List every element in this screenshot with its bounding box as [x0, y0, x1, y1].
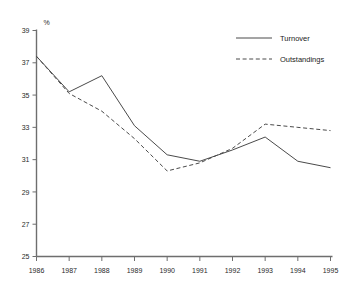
y-tick-label: 39 [22, 27, 30, 34]
series-line-turnover [37, 56, 331, 167]
x-tick-label: 1990 [159, 267, 175, 274]
x-tick-label: 1993 [257, 267, 273, 274]
y-tick-label: 29 [22, 189, 30, 196]
x-tick-label: 1995 [323, 267, 339, 274]
x-tick-label: 1989 [127, 267, 143, 274]
legend-label-turnover: Turnover [280, 34, 310, 43]
x-tick-label: 1991 [192, 267, 208, 274]
y-tick-label: 33 [22, 124, 30, 131]
y-tick-label: 27 [22, 221, 30, 228]
x-tick-label: 1988 [94, 267, 110, 274]
line-chart: 2527293133353739%19861987198819891990199… [0, 0, 345, 289]
series-line-outstandings [37, 56, 331, 171]
chart-canvas: 2527293133353739%19861987198819891990199… [0, 0, 345, 289]
y-tick-label: 35 [22, 92, 30, 99]
x-tick-label: 1987 [61, 267, 77, 274]
x-tick-label: 1992 [225, 267, 241, 274]
x-tick-label: 1994 [290, 267, 306, 274]
y-axis-unit-label: % [44, 19, 50, 26]
legend-label-outstandings: Outstandings [280, 55, 324, 64]
x-tick-label: 1986 [29, 267, 45, 274]
y-tick-label: 25 [22, 253, 30, 260]
y-tick-label: 37 [22, 59, 30, 66]
y-tick-label: 31 [22, 156, 30, 163]
